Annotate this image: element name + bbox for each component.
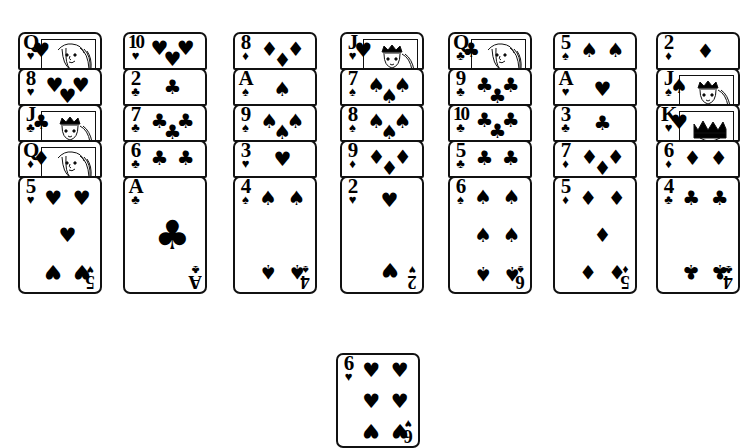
- card-index-top: 6♣: [128, 140, 143, 169]
- playing-card[interactable]: Q♦♦: [18, 140, 102, 178]
- card-suit-icon: ♦: [558, 159, 573, 169]
- card-pip: ♥: [59, 225, 77, 245]
- card-suit-icon: ♠: [558, 51, 573, 61]
- card-pip: ♣: [164, 122, 182, 142]
- tableau-column-2[interactable]: 10♥♥♥♥2♣♣7♣♣♣♣6♣♣♣A♣♣A♣: [123, 32, 209, 294]
- card-pip: ♣: [682, 262, 700, 282]
- card-suit-icon: ♣: [128, 87, 143, 97]
- card-pip-field: ♦♦: [677, 144, 734, 174]
- card-index-top: 10♣: [453, 104, 468, 133]
- playing-card[interactable]: 3♣♣: [553, 104, 637, 142]
- card-rank: 2: [661, 32, 676, 52]
- card-index-top: 7♦: [558, 140, 573, 169]
- card-pip-field: ♣♣♣: [469, 108, 526, 138]
- playing-card[interactable]: 5♦♦♦♦♦♦5♦: [553, 176, 637, 294]
- card-suit-icon: ♦: [661, 51, 676, 61]
- playing-card[interactable]: 8♦♦♦♦: [233, 32, 317, 70]
- playing-card[interactable]: 7♠♠♠♠: [340, 68, 424, 106]
- free-cell-card[interactable]: 6♥♥♥♥♥♥♥6♥: [336, 353, 420, 448]
- card-pip: ♠: [474, 264, 492, 284]
- playing-card[interactable]: 10♥♥♥♥: [123, 32, 207, 70]
- playing-card[interactable]: 6♣♣♣: [123, 140, 207, 178]
- tableau-column-1[interactable]: Q♥♥8♥♥♥♥J♣♣Q♦♦5♥♥♥♥♥♥5♥: [18, 32, 104, 294]
- playing-card[interactable]: 5♠♠♠: [553, 32, 637, 70]
- card-rank: A: [128, 176, 143, 196]
- card-index-top: 6♥: [341, 353, 356, 382]
- tableau-column-6[interactable]: 5♠♠♠A♥♥3♣♣7♦♦♦♦5♦♦♦♦♦♦5♦: [553, 32, 639, 294]
- card-rank: 7: [345, 68, 360, 88]
- tableau-column-4[interactable]: J♥♥7♠♠♠♠8♠♠♠♠9♦♦♦♦2♥♥♥2♥: [340, 32, 426, 294]
- card-index-top: 9♠: [238, 104, 253, 133]
- playing-card[interactable]: 5♣♣♣: [448, 140, 532, 178]
- card-suit-icon: ♥: [558, 87, 573, 97]
- card-rank: 7: [128, 104, 143, 124]
- playing-card[interactable]: J♠♠: [656, 68, 740, 106]
- playing-card[interactable]: 4♣♣♣♣♣4♣: [656, 176, 740, 294]
- card-rank: 6: [453, 176, 468, 196]
- playing-card[interactable]: 9♠♠♠♠: [233, 104, 317, 142]
- card-pip: ♣: [155, 215, 191, 255]
- card-suit-icon: ♠: [345, 87, 360, 97]
- playing-card[interactable]: 10♣♣♣♣: [448, 104, 532, 142]
- card-pip-field: ♠♠♠: [361, 72, 418, 102]
- card-index-bottom: 4♣: [721, 265, 736, 292]
- playing-card[interactable]: 2♥♥♥2♥: [340, 176, 424, 294]
- card-pip-field: ♥: [361, 36, 418, 66]
- card-index-top: 4♠: [238, 176, 253, 205]
- playing-card[interactable]: 3♥♥: [233, 140, 317, 178]
- card-pip-field: ♦: [677, 36, 734, 66]
- playing-card[interactable]: 5♥♥♥♥♥♥5♥: [18, 176, 102, 294]
- card-pip: ♠: [381, 122, 399, 142]
- card-suit-icon: ♣: [453, 123, 468, 133]
- playing-card[interactable]: A♥♥: [553, 68, 637, 106]
- playing-card[interactable]: 8♥♥♥♥: [18, 68, 102, 106]
- tableau-column-5[interactable]: Q♣♣9♣♣♣♣10♣♣♣♣5♣♣♣6♠♠♠♠♠♠♠6♠: [448, 32, 534, 294]
- card-pip: ♦: [579, 262, 597, 282]
- playing-card[interactable]: 6♦♦♦: [656, 140, 740, 178]
- card-rank: 8: [345, 104, 360, 124]
- card-suit-icon: ♠: [238, 123, 253, 133]
- card-pip: ♠: [503, 187, 521, 207]
- card-rank: 7: [558, 140, 573, 160]
- card-pip: ♥: [32, 40, 50, 60]
- playing-card[interactable]: 8♠♠♠♠: [340, 104, 424, 142]
- card-pip-field: ♠♠♠: [361, 108, 418, 138]
- playing-card[interactable]: 7♣♣♣♣: [123, 104, 207, 142]
- playing-card[interactable]: 9♦♦♦♦: [340, 140, 424, 178]
- card-pip: ♥: [381, 190, 399, 210]
- playing-card[interactable]: A♣♣A♣: [123, 176, 207, 294]
- tableau-column-7[interactable]: 2♦♦J♠♠K♥♥6♦♦♦4♣♣♣♣♣4♣: [656, 32, 742, 294]
- card-suit-icon: ♠: [238, 195, 253, 205]
- playing-card[interactable]: J♥♥: [340, 32, 424, 70]
- playing-card[interactable]: A♠♠: [233, 68, 317, 106]
- playing-card[interactable]: Q♣♣: [448, 32, 532, 70]
- card-suit-icon: ♦: [238, 51, 253, 61]
- card-pip-field: ♣: [144, 72, 201, 102]
- card-index-bottom: 5♥: [83, 265, 98, 292]
- tableau-column-3[interactable]: 8♦♦♦♦A♠♠9♠♠♠♠3♥♥4♠♠♠♠♠4♠: [233, 32, 319, 294]
- card-rank: A: [558, 68, 573, 88]
- card-index-top: 2♥: [345, 176, 360, 205]
- card-index-top: 5♣: [453, 140, 468, 169]
- playing-card[interactable]: 2♣♣: [123, 68, 207, 106]
- card-suit-icon: ♠: [345, 123, 360, 133]
- card-pip: ♠: [607, 40, 625, 60]
- playing-card[interactable]: 9♣♣♣♣: [448, 68, 532, 106]
- card-pip: ♦: [710, 148, 728, 168]
- card-pip: ♦: [32, 148, 50, 168]
- playing-card[interactable]: J♣♣: [18, 104, 102, 142]
- playing-card[interactable]: 2♦♦: [656, 32, 740, 70]
- playing-card[interactable]: 7♦♦♦♦: [553, 140, 637, 178]
- playing-card[interactable]: 6♠♠♠♠♠♠♠6♠: [448, 176, 532, 294]
- card-index-top: 2♣: [128, 68, 143, 97]
- playing-card[interactable]: 4♠♠♠♠♠4♠: [233, 176, 317, 294]
- card-suit-icon: ♠: [453, 195, 468, 205]
- card-rank: 6: [128, 140, 143, 160]
- card-index-top: 6♠: [453, 176, 468, 205]
- playing-card[interactable]: K♥♥: [656, 104, 740, 142]
- card-rank: 3: [238, 140, 253, 160]
- card-pip: ♠: [259, 262, 277, 282]
- card-pip-field: ♣: [574, 108, 631, 138]
- card-suit-icon: ♦: [661, 159, 676, 169]
- playing-card[interactable]: Q♥♥: [18, 32, 102, 70]
